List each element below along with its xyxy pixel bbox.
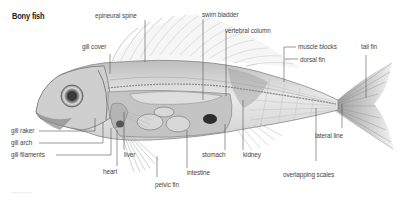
- heart-organ: [116, 121, 124, 128]
- label-kidney: kidney: [243, 150, 261, 159]
- diagram-title: Bony fish: [12, 11, 45, 21]
- label-heart: heart: [103, 167, 117, 176]
- label-liver: liver: [124, 150, 135, 159]
- label-overlapping-scales: overlapping scales: [283, 170, 334, 179]
- label-stomach: stomach: [202, 150, 225, 159]
- label-gill-filaments: gill filaments: [11, 150, 45, 159]
- label-gill-arch: gill arch: [11, 138, 32, 147]
- label-gill-cover: gill cover: [82, 42, 106, 51]
- label-intestine: intestine: [187, 168, 210, 177]
- label-epineural-spine: epineural spine: [95, 11, 137, 20]
- stomach-organ: [203, 114, 217, 124]
- label-gill-raker: gill raker: [11, 126, 34, 135]
- label-muscle-blocks: muscle blocks: [298, 42, 337, 51]
- label-tail-fin: tail fin: [361, 42, 377, 51]
- label-dorsal-fin: dorsal fin: [300, 55, 325, 64]
- label-vertebral-column: vertebral column: [225, 26, 271, 35]
- label-lateral-line: lateral line: [315, 131, 343, 140]
- label-pelvic-fin: pelvic fin: [155, 180, 179, 189]
- label-swim-bladder: swim bladder: [202, 10, 238, 19]
- footer-dots: ·······: [11, 189, 32, 195]
